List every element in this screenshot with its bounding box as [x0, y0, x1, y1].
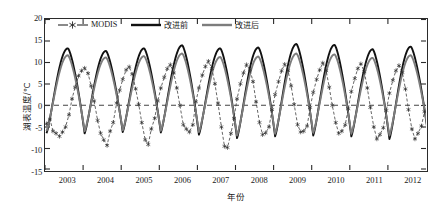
x-tick-label: 2006 — [174, 175, 191, 185]
y-tick-label: -5 — [35, 123, 42, 133]
legend-label-modis: MODIS — [91, 20, 117, 29]
figure-root: 20 15 10 5 0 -5 -10 -15 湖表温度/℃ — [0, 0, 440, 214]
plot-area — [44, 18, 428, 172]
x-tick-label: 2011 — [366, 175, 383, 185]
y-tick-label: 0 — [38, 101, 42, 111]
y-tick-label: 15 — [34, 35, 42, 45]
x-tick-label: 2012 — [404, 175, 421, 185]
legend-item-modis[interactable]: MODIS — [58, 20, 131, 30]
legend-swatch-before — [131, 20, 161, 30]
legend: MODIS 改进前 改进后 — [58, 19, 273, 30]
legend-label-after: 改进后 — [235, 19, 259, 30]
x-tick-label: 2008 — [251, 175, 268, 185]
y-axis-title: 湖表温度/℃ — [20, 83, 32, 131]
y-tick-label: 5 — [38, 79, 42, 89]
y-tick-label: -10 — [31, 145, 42, 155]
legend-item-after[interactable]: 改进后 — [202, 19, 273, 30]
y-tick-label: 10 — [34, 57, 42, 67]
asterisk-icon — [69, 21, 75, 28]
plot-canvas — [45, 19, 426, 170]
x-tick-label: 2003 — [59, 175, 76, 185]
x-axis-title: 年份 — [227, 190, 245, 202]
x-tick-label: 2004 — [97, 175, 114, 185]
x-tick-label: 2007 — [212, 175, 229, 185]
series-line-after — [47, 54, 426, 136]
legend-label-before: 改进前 — [164, 19, 188, 30]
x-tick-label: 2010 — [328, 175, 345, 185]
y-tick-label: -15 — [31, 167, 42, 177]
y-tick-label: 20 — [34, 13, 42, 23]
legend-swatch-after — [202, 20, 232, 30]
x-tick-label: 2005 — [136, 175, 153, 185]
legend-item-before[interactable]: 改进前 — [131, 19, 202, 30]
y-axis-ticks-inner — [45, 20, 426, 170]
series-line-modis — [47, 61, 425, 147]
legend-swatch-modis — [58, 20, 88, 30]
x-tick-label: 2009 — [289, 175, 306, 185]
